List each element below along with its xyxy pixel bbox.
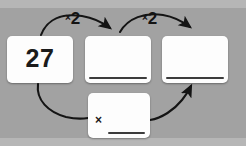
- worksheet-canvas: ×2 ×2 27 ×: [0, 0, 246, 146]
- second-double-answer-line[interactable]: [166, 77, 224, 79]
- multiply-sign-icon: ×: [95, 114, 102, 126]
- arrow-total-to-step2: [150, 86, 191, 120]
- operation-label-times-two-second: ×2: [142, 10, 158, 27]
- arrow-start-to-total: [38, 84, 88, 119]
- operation-value-first: 2: [71, 9, 81, 28]
- operation-value-second: 2: [148, 9, 158, 28]
- starting-number-value: 27: [7, 45, 73, 71]
- starting-number-card[interactable]: 27: [7, 36, 73, 83]
- multiplication-total-card[interactable]: ×: [88, 93, 150, 138]
- multiplication-total-answer-line[interactable]: [108, 132, 145, 134]
- second-double-card[interactable]: [162, 36, 228, 83]
- first-double-card[interactable]: [85, 36, 151, 83]
- first-double-answer-line[interactable]: [89, 77, 147, 79]
- operation-label-times-two-first: ×2: [65, 10, 81, 27]
